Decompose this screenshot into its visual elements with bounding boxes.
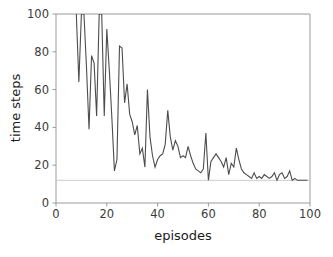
y-tick-label: 40 <box>34 120 49 134</box>
x-tick-label: 100 <box>299 207 321 221</box>
x-tick-label: 20 <box>99 207 114 221</box>
y-tick-label: 60 <box>34 83 49 97</box>
figure-canvas: 020406080100020406080100 episodes time s… <box>0 0 333 257</box>
y-tick-label: 80 <box>34 45 49 59</box>
x-tick-label: 60 <box>201 207 216 221</box>
x-axis-title: episodes <box>154 228 212 243</box>
x-tick-label: 80 <box>252 207 267 221</box>
y-tick-label: 20 <box>34 158 49 172</box>
y-tick-label: 100 <box>27 7 49 21</box>
x-tick-label: 0 <box>52 207 59 221</box>
y-axis-title: time steps <box>8 74 23 143</box>
x-tick-label: 40 <box>150 207 165 221</box>
y-tick-label: 0 <box>42 196 49 210</box>
line-chart: 020406080100020406080100 episodes time s… <box>0 0 333 257</box>
plot-area-background <box>56 14 310 203</box>
